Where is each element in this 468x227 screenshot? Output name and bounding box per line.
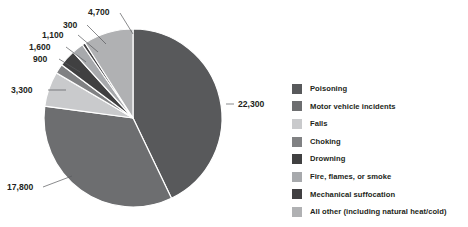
legend-item[interactable]: Fire, flames, or smoke — [292, 168, 468, 186]
pie-value-label: 900 — [33, 55, 47, 64]
pie-value-label: 4,700 — [88, 8, 110, 17]
legend-item[interactable]: Choking — [292, 133, 468, 151]
legend-item-label: Poisoning — [310, 85, 347, 93]
chart-legend: PoisoningMotor vehicle incidentsFallsCho… — [292, 80, 468, 221]
legend-item[interactable]: Falls — [292, 115, 468, 133]
legend-item[interactable]: Motor vehicle incidents — [292, 98, 468, 116]
pie-value-label: 22,300 — [238, 100, 264, 109]
pie-chart-figure: 22,30017,8003,3009001,6001,1003004,700 P… — [0, 0, 468, 227]
pie-value-label: 17,800 — [7, 183, 33, 192]
legend-item[interactable]: All other (including natural heat/cold) — [292, 203, 468, 221]
pie-value-label: 1,100 — [42, 31, 64, 40]
legend-item-label: Fire, flames, or smoke — [310, 173, 391, 181]
legend-item[interactable]: Mechanical suffocation — [292, 186, 468, 204]
pie-value-label: 1,600 — [29, 43, 51, 52]
legend-swatch-icon — [292, 137, 302, 147]
legend-swatch-icon — [292, 154, 302, 164]
leader-line — [43, 176, 72, 187]
legend-swatch-icon — [292, 101, 302, 111]
legend-swatch-icon — [292, 119, 302, 129]
legend-item-label: All other (including natural heat/cold) — [310, 208, 447, 216]
pie-value-label: 300 — [63, 21, 77, 30]
legend-item-label: Drowning — [310, 155, 345, 163]
legend-swatch-icon — [292, 84, 302, 94]
legend-item-label: Motor vehicle incidents — [310, 103, 396, 111]
legend-swatch-icon — [292, 189, 302, 199]
legend-item-label: Choking — [310, 138, 341, 146]
pie-value-label: 3,300 — [11, 86, 33, 95]
legend-item[interactable]: Drowning — [292, 150, 468, 168]
legend-swatch-icon — [292, 207, 302, 217]
legend-item-label: Mechanical suffocation — [310, 191, 395, 199]
legend-item-label: Falls — [310, 120, 328, 128]
legend-swatch-icon — [292, 172, 302, 182]
legend-item[interactable]: Poisoning — [292, 80, 468, 98]
pie-slices-group — [44, 29, 222, 207]
